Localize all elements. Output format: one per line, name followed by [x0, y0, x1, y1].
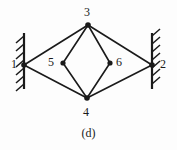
joint-node-4 — [84, 95, 90, 101]
member-1-4 — [24, 65, 87, 98]
wall-hatching-right — [152, 29, 160, 84]
member-4-5 — [63, 63, 87, 98]
truss-members-outer — [24, 25, 152, 98]
node-label-5: 5 — [48, 56, 54, 68]
node-label-6: 6 — [116, 56, 122, 68]
member-3-5 — [63, 25, 88, 63]
figure-caption: (d) — [0, 126, 177, 141]
support-wall-left — [16, 33, 24, 91]
joint-node-6 — [107, 60, 112, 65]
joint-node-1 — [21, 62, 27, 68]
member-3-6 — [88, 25, 110, 63]
joint-node-2 — [149, 62, 155, 68]
support-wall-right — [152, 29, 160, 89]
joint-node-3 — [85, 22, 91, 28]
member-1-3 — [24, 25, 88, 65]
node-label-2: 2 — [160, 58, 166, 70]
member-2-4 — [87, 65, 152, 98]
joint-node-5 — [60, 60, 65, 65]
node-label-4: 4 — [83, 106, 89, 118]
truss-figure: 1 2 3 4 5 6 (d) — [0, 0, 177, 150]
node-label-3: 3 — [84, 6, 90, 18]
node-label-1: 1 — [11, 58, 17, 70]
truss-joints — [21, 22, 155, 101]
